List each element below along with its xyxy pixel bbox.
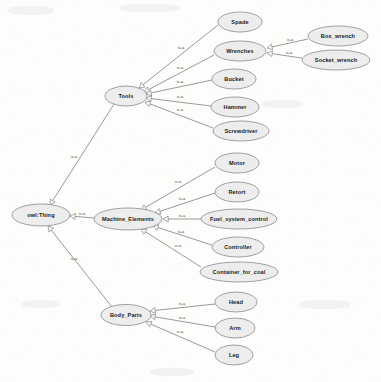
node-label: Retort [228, 189, 245, 195]
node-label: Controller [224, 244, 252, 250]
edge-machine_elements-to-owl_thing: is-a [70, 211, 94, 219]
node-wrenches[interactable]: Wrenches [214, 41, 266, 61]
node-spade[interactable]: Spade [218, 12, 262, 32]
node-label: Tools [118, 93, 133, 99]
edge-label: is-a [177, 94, 184, 99]
node-leg[interactable]: Leg [215, 345, 253, 365]
node-label: owl:Thing [27, 212, 55, 218]
edge-label: is-a [177, 79, 184, 84]
edge-arm-to-body_parts: is-a [150, 314, 215, 327]
node-owl_thing[interactable]: owl:Thing [12, 204, 70, 226]
node-head[interactable]: Head [215, 292, 257, 312]
node-label: Body_Parts [110, 312, 142, 318]
edge-label: is-a [179, 315, 186, 320]
edge-label: is-a [286, 50, 293, 55]
generalization-arrowhead-icon [139, 82, 145, 88]
edge-label: is-a [177, 107, 184, 112]
node-label: Box_wrench [321, 33, 356, 39]
edge-body_parts-to-owl_thing: is-a [48, 226, 112, 307]
node-tools[interactable]: Tools [105, 86, 147, 106]
node-label: Bucket [224, 76, 243, 82]
node-retort[interactable]: Retort [215, 182, 259, 202]
edge-socket_wrench-to-wrenches: is-a [267, 50, 302, 58]
edge-line [145, 167, 215, 207]
node-socket_wrench[interactable]: Socket_wrench [302, 50, 370, 70]
ontology-graph: is-ais-ais-ais-ais-ais-ais-ais-ais-ais-a… [0, 0, 381, 382]
edge-label: is-a [71, 154, 78, 159]
node-fuel_system_control[interactable]: Fuel_system_control [201, 209, 277, 229]
generalization-arrowhead-icon [145, 101, 151, 106]
generalization-arrowhead-icon [267, 44, 273, 50]
edge-label: is-a [79, 211, 86, 216]
edge-line [51, 230, 112, 307]
edge-fuel_system_control-to-machine_elements: is-a [163, 213, 201, 222]
node-motor[interactable]: Motor [215, 153, 259, 173]
edge-line [151, 99, 211, 106]
generalization-arrowhead-icon [267, 51, 273, 57]
generalization-arrowhead-icon [48, 226, 53, 232]
edge-head-to-body_parts: is-a [150, 301, 215, 313]
edge-line [53, 104, 114, 201]
node-label: Spade [231, 19, 248, 25]
generalization-arrowhead-icon [150, 308, 155, 314]
edge-label: is-a [178, 45, 185, 50]
node-label: Leg [229, 352, 240, 358]
node-container_for_coal[interactable]: Container_for_coal [200, 262, 278, 282]
node-machine_elements[interactable]: Machine_Elements [94, 208, 162, 230]
edge-line [75, 216, 94, 218]
edge-label: is-a [179, 213, 186, 218]
nodes-layer: owl:ThingToolsMachine_ElementsBody_Parts… [12, 12, 370, 365]
node-label: Wrenches [226, 48, 253, 54]
node-label: Head [229, 299, 244, 305]
edge-label: is-a [179, 301, 186, 306]
edge-label: is-a [177, 65, 184, 70]
edge-label: is-a [71, 256, 78, 261]
node-label: Socket_wrench [315, 57, 358, 63]
generalization-arrowhead-icon [70, 214, 75, 220]
edge-retort-to-machine_elements: is-a [155, 193, 215, 214]
node-label: Container_for_coal [213, 269, 266, 275]
edge-label: is-a [179, 196, 186, 201]
edge-label: is-a [287, 37, 294, 42]
edge-label: is-a [175, 243, 182, 248]
edge-box_wrench-to-wrenches: is-a [267, 37, 308, 50]
edge-leg-to-body_parts: is-a [146, 321, 215, 352]
edge-container_for_coal-to-machine_elements: is-a [141, 229, 201, 267]
edge-hammer-to-tools: is-a [146, 94, 211, 106]
generalization-arrowhead-icon [163, 216, 168, 222]
generalization-arrowhead-icon [141, 229, 147, 234]
node-label: Fuel_system_control [210, 216, 268, 222]
node-arm[interactable]: Arm [215, 318, 255, 338]
node-label: Motor [229, 160, 246, 166]
edge-wrenches-to-tools: is-a [144, 55, 214, 92]
node-label: Machine_Elements [102, 216, 154, 222]
edge-line [158, 228, 212, 245]
node-box_wrench[interactable]: Box_wrench [308, 26, 368, 46]
edge-motor-to-machine_elements: is-a [141, 167, 215, 210]
node-bucket[interactable]: Bucket [212, 69, 256, 89]
node-label: Screwdriver [224, 128, 258, 134]
generalization-arrowhead-icon [50, 199, 55, 205]
node-hammer[interactable]: Hammer [211, 97, 259, 117]
node-label: Hammer [224, 104, 248, 110]
diagram-canvas: is-ais-ais-ais-ais-ais-ais-ais-ais-ais-a… [0, 0, 381, 382]
edges-layer: is-ais-ais-ais-ais-ais-ais-ais-ais-ais-a… [48, 25, 308, 352]
edge-label: is-a [177, 329, 184, 334]
node-body_parts[interactable]: Body_Parts [101, 305, 151, 326]
node-controller[interactable]: Controller [212, 237, 264, 257]
edge-label: is-a [175, 179, 182, 184]
edge-line [160, 193, 215, 211]
generalization-arrowhead-icon [146, 321, 152, 326]
edge-line [145, 232, 201, 267]
edge-tools-to-owl_thing: is-a [50, 104, 114, 205]
edge-line [143, 25, 218, 85]
node-screwdriver[interactable]: Screwdriver [213, 121, 269, 141]
edge-label: is-a [178, 229, 185, 234]
node-label: Arm [229, 325, 241, 331]
